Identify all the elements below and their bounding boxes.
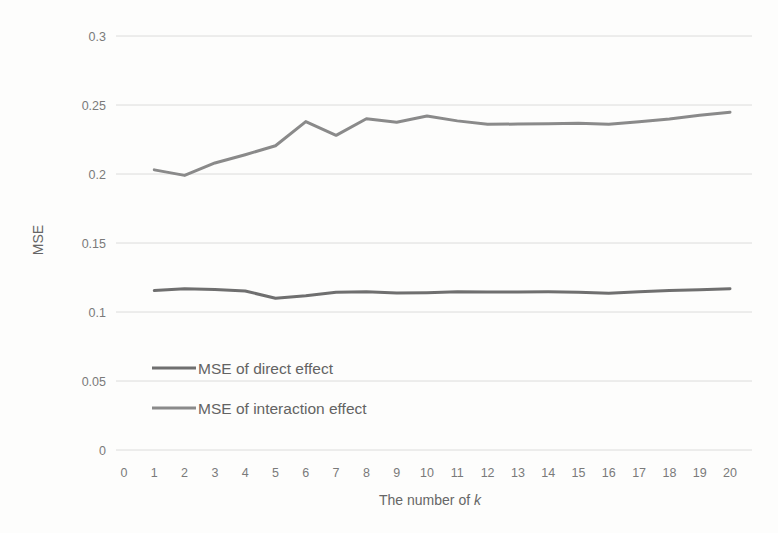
- x-axis-tick-labels: 01234567891011121314151617181920: [121, 466, 737, 480]
- x-tick-label: 12: [481, 466, 495, 480]
- x-tick-label: 10: [420, 466, 434, 480]
- x-tick-label: 16: [602, 466, 616, 480]
- x-axis-title-plain: The number of: [379, 492, 474, 508]
- legend-label-0: MSE of direct effect: [198, 360, 334, 377]
- x-axis-title-variable: k: [474, 492, 482, 508]
- x-tick-label: 14: [541, 466, 555, 480]
- x-tick-label: 9: [393, 466, 400, 480]
- x-tick-label: 20: [723, 466, 737, 480]
- chart-legend: MSE of direct effectMSE of interaction e…: [152, 360, 367, 417]
- x-tick-label: 7: [333, 466, 340, 480]
- y-tick-label: 0.1: [89, 306, 106, 320]
- x-tick-label: 6: [302, 466, 309, 480]
- gridlines: [116, 36, 752, 450]
- x-tick-label: 17: [632, 466, 646, 480]
- y-tick-label: 0.15: [82, 237, 106, 251]
- series-line-1: [154, 112, 730, 175]
- y-tick-label: 0: [99, 444, 106, 458]
- x-tick-label: 5: [272, 466, 279, 480]
- series-line-0: [154, 289, 730, 298]
- y-tick-label: 0.25: [82, 99, 106, 113]
- x-tick-label: 18: [662, 466, 676, 480]
- y-tick-label: 0.05: [82, 375, 106, 389]
- x-tick-label: 8: [363, 466, 370, 480]
- x-tick-label: 4: [242, 466, 249, 480]
- x-tick-label: 15: [572, 466, 586, 480]
- x-tick-label: 2: [181, 466, 188, 480]
- y-tick-label: 0.3: [89, 30, 106, 44]
- x-tick-label: 1: [151, 466, 158, 480]
- x-tick-label: 0: [121, 466, 128, 480]
- x-tick-label: 19: [693, 466, 707, 480]
- chart-canvas: 00.050.10.150.20.250.3 01234567891011121…: [0, 0, 778, 533]
- x-tick-label: 11: [451, 466, 464, 480]
- y-tick-label: 0.2: [89, 168, 106, 182]
- data-series: [154, 112, 730, 298]
- mse-line-chart: 00.050.10.150.20.250.3 01234567891011121…: [0, 0, 778, 533]
- y-axis-title: MSE: [30, 225, 46, 255]
- x-tick-label: 13: [511, 466, 525, 480]
- y-axis-tick-labels: 00.050.10.150.20.250.3: [82, 30, 106, 458]
- x-axis-title: The number of k: [379, 492, 482, 508]
- x-tick-label: 3: [211, 466, 218, 480]
- legend-label-1: MSE of interaction effect: [198, 400, 367, 417]
